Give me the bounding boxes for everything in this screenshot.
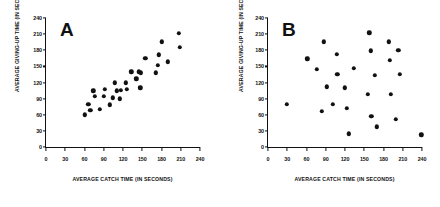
x-tick-label: 90 bbox=[101, 156, 107, 162]
y-tick-mark bbox=[43, 114, 47, 115]
data-point bbox=[134, 77, 138, 81]
y-tick-mark bbox=[265, 130, 269, 131]
x-tick-label: 60 bbox=[82, 156, 88, 162]
y-tick-label: 120 bbox=[255, 80, 264, 86]
data-point bbox=[322, 39, 326, 43]
y-tick-mark bbox=[265, 82, 269, 83]
x-tick-label: 60 bbox=[304, 156, 310, 162]
data-point bbox=[159, 39, 163, 43]
y-tick-mark bbox=[265, 98, 269, 99]
x-tick-mark bbox=[161, 147, 162, 151]
x-tick-mark bbox=[344, 147, 345, 151]
panel-a-letter: A bbox=[60, 20, 74, 39]
data-point bbox=[111, 95, 115, 99]
y-tick-label: 150 bbox=[33, 63, 42, 69]
data-point bbox=[143, 56, 147, 60]
x-tick-label: 180 bbox=[157, 156, 166, 162]
y-tick-label: 120 bbox=[33, 80, 42, 86]
x-tick-label: 210 bbox=[176, 156, 185, 162]
data-point bbox=[154, 71, 158, 75]
data-point bbox=[345, 106, 349, 110]
data-point bbox=[157, 52, 161, 56]
data-point bbox=[396, 48, 400, 52]
x-tick-label: 150 bbox=[138, 156, 147, 162]
y-tick-mark bbox=[265, 34, 269, 35]
data-point bbox=[335, 72, 339, 76]
data-point bbox=[375, 124, 379, 128]
data-point bbox=[98, 107, 102, 111]
x-tick-label: 150 bbox=[360, 156, 369, 162]
y-tick-label: 60 bbox=[258, 112, 264, 118]
data-point bbox=[334, 52, 338, 56]
x-tick-mark bbox=[267, 147, 268, 151]
data-point bbox=[419, 132, 423, 136]
x-tick-mark bbox=[199, 147, 200, 151]
y-tick-label: 180 bbox=[255, 47, 264, 53]
data-point bbox=[347, 131, 351, 135]
data-point bbox=[369, 114, 373, 118]
y-tick-mark bbox=[43, 130, 47, 131]
x-tick-mark bbox=[142, 147, 143, 151]
x-tick-mark bbox=[84, 147, 85, 151]
panel-a-x-axis-title: AVERAGE CATCH TIME (IN SECONDS) bbox=[45, 176, 200, 182]
panel-b-letter: B bbox=[282, 20, 296, 39]
data-point bbox=[88, 108, 92, 112]
x-tick-mark bbox=[402, 147, 403, 151]
data-point bbox=[284, 102, 288, 106]
x-tick-label: 240 bbox=[418, 156, 427, 162]
x-tick-label: 120 bbox=[341, 156, 350, 162]
y-tick-label: 180 bbox=[33, 47, 42, 53]
data-point bbox=[86, 102, 90, 106]
data-point bbox=[155, 63, 159, 67]
y-tick-label: 30 bbox=[36, 128, 42, 134]
y-tick-mark bbox=[43, 17, 47, 18]
data-point bbox=[125, 87, 129, 91]
data-point bbox=[102, 94, 106, 98]
x-tick-label: 120 bbox=[119, 156, 128, 162]
panel-b-x-axis-title: AVERAGE CATCH TIME (IN SECONDS) bbox=[267, 176, 422, 182]
y-tick-mark bbox=[265, 114, 269, 115]
data-point bbox=[91, 88, 95, 92]
x-tick-label: 90 bbox=[323, 156, 329, 162]
data-point bbox=[320, 109, 324, 113]
data-point bbox=[397, 72, 401, 76]
panel-a: AVERAGE GIVING-UP TIME (IN SECONDS) 0306… bbox=[0, 0, 220, 207]
x-tick-label: 210 bbox=[398, 156, 407, 162]
x-tick-mark bbox=[383, 147, 384, 151]
panel-b-y-tick-labels: 0306090120150180210240 bbox=[244, 18, 264, 148]
panel-b: AVERAGE GIVING-UP TIME (IN SECONDS) 0306… bbox=[220, 0, 440, 207]
x-tick-label: 240 bbox=[196, 156, 205, 162]
y-tick-mark bbox=[43, 50, 47, 51]
data-point bbox=[93, 94, 97, 98]
x-tick-mark bbox=[103, 147, 104, 151]
data-point bbox=[107, 102, 111, 106]
data-point bbox=[393, 117, 397, 121]
x-tick-mark bbox=[65, 147, 66, 151]
y-tick-label: 210 bbox=[33, 31, 42, 37]
y-tick-label: 240 bbox=[255, 15, 264, 21]
data-point bbox=[123, 80, 127, 84]
data-point bbox=[343, 86, 347, 90]
data-point bbox=[325, 85, 329, 89]
data-point bbox=[118, 96, 122, 100]
data-point bbox=[138, 86, 142, 90]
y-tick-mark bbox=[265, 66, 269, 67]
x-tick-mark bbox=[122, 147, 123, 151]
data-point bbox=[305, 57, 309, 61]
panel-a-y-axis-title: AVERAGE GIVING-UP TIME (IN SECONDS) bbox=[14, 0, 20, 102]
y-tick-label: 30 bbox=[258, 128, 264, 134]
data-point bbox=[386, 39, 390, 43]
data-point bbox=[331, 102, 335, 106]
data-point bbox=[372, 73, 376, 77]
scatter-figure: AVERAGE GIVING-UP TIME (IN SECONDS) 0306… bbox=[0, 0, 440, 207]
data-point bbox=[388, 58, 392, 62]
x-tick-mark bbox=[45, 147, 46, 151]
data-point bbox=[82, 113, 86, 117]
y-tick-label: 240 bbox=[33, 15, 42, 21]
data-point bbox=[139, 71, 143, 75]
data-point bbox=[367, 30, 371, 34]
data-point bbox=[352, 66, 356, 70]
x-tick-label: 180 bbox=[379, 156, 388, 162]
data-point bbox=[177, 31, 181, 35]
data-point bbox=[103, 87, 107, 91]
